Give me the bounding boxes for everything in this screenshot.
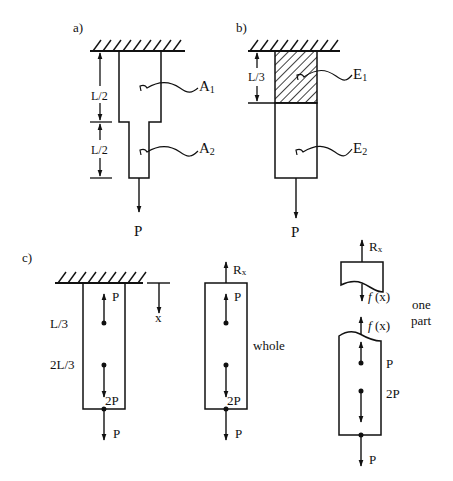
stepped-bar — [119, 51, 161, 178]
hatched-segment-e1 — [275, 51, 317, 103]
whole-caption: whole — [253, 338, 285, 353]
dim-label-upper: L/2 — [91, 89, 108, 103]
load-label: P — [134, 223, 142, 239]
dimension-line — [90, 53, 112, 178]
modulus-label-e2: E2 — [353, 140, 367, 157]
x-axis-label: x — [155, 310, 162, 325]
modulus-label-e1: E1 — [353, 66, 367, 83]
internal-force-label-top: f (x) — [368, 289, 390, 304]
force-label-2p: 2P — [386, 386, 400, 401]
dim-label: L/3 — [248, 70, 265, 84]
reaction-label: Rx — [233, 262, 247, 277]
load-label: P — [291, 224, 299, 240]
bottom-piece-forces — [359, 317, 363, 466]
force-label-2p: 2P — [227, 393, 241, 408]
force-label-p-up: P — [386, 356, 393, 371]
panel-b: b) L/3 E1 E2 P — [236, 20, 367, 240]
force-label-p-up: P — [112, 289, 119, 304]
panel-a-label: a) — [73, 20, 83, 35]
one-part-caption-line2: part — [411, 313, 432, 328]
area-label-a2: A2 — [199, 140, 215, 157]
position-label-l3: L/3 — [50, 316, 68, 331]
internal-force-label-bottom: f (x) — [368, 318, 390, 333]
force-label-p-end: P — [235, 426, 242, 441]
panel-c: c) P 2P P L/3 2L/3 — [22, 239, 432, 467]
whole-bar-forces — [224, 262, 228, 440]
cut-bottom-piece — [339, 332, 381, 435]
panel-c-label: c) — [22, 250, 32, 265]
fixed-support-wall-icon — [90, 40, 185, 51]
beam-diagram: a) L/2 L/2 A1 — [0, 0, 453, 481]
x-axis-indicator — [147, 283, 170, 313]
force-label-2p: 2P — [105, 393, 119, 408]
area-label-a1: A1 — [199, 78, 215, 95]
fixed-support-wall-icon — [248, 40, 340, 51]
dim-label-lower: L/2 — [91, 143, 108, 157]
one-part-caption-line1: one — [412, 297, 431, 312]
plain-segment-e2 — [275, 103, 317, 178]
reaction-label: Rx — [369, 239, 383, 254]
panel-b-label: b) — [236, 20, 247, 35]
leader-a1 — [140, 82, 198, 92]
fixed-support-wall-icon — [55, 272, 146, 283]
force-label-p-end: P — [113, 426, 120, 441]
panel-a: a) L/2 L/2 A1 — [73, 20, 215, 239]
fixed-bar-forces — [102, 294, 106, 440]
position-label-2l3: 2L/3 — [50, 357, 75, 372]
force-label-p-end: P — [369, 452, 376, 467]
force-label-p-up: P — [234, 289, 241, 304]
